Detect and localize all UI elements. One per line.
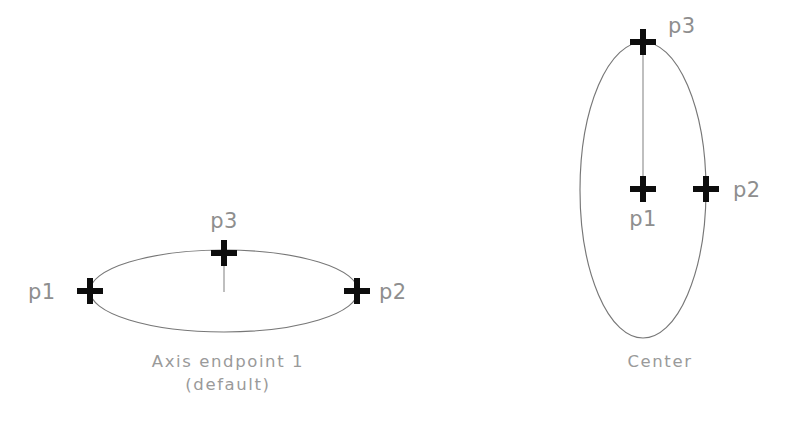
point-label-p2-center: p2 bbox=[733, 178, 761, 202]
point-label-p3-center: p3 bbox=[668, 14, 696, 38]
ellipse-methods-diagram: p1 p2 p3 Axis endpoint 1 (default) p1 bbox=[0, 0, 796, 422]
point-marker-p1-axis-endpoint[interactable] bbox=[77, 278, 103, 304]
point-marker-p3-center[interactable] bbox=[630, 29, 656, 55]
point-marker-p3-axis-endpoint[interactable] bbox=[211, 240, 237, 266]
point-marker-p2-axis-endpoint[interactable] bbox=[344, 278, 370, 304]
point-marker-p2-center[interactable] bbox=[693, 176, 719, 202]
point-label-p1-center: p1 bbox=[629, 207, 657, 231]
caption-axis-endpoint-line1: Axis endpoint 1 bbox=[152, 352, 304, 371]
figure-center: p1 p2 p3 Center bbox=[580, 14, 761, 371]
caption-axis-endpoint-line2: (default) bbox=[185, 375, 270, 394]
point-label-p3-axis-endpoint: p3 bbox=[210, 209, 238, 233]
figure-axis-endpoint: p1 p2 p3 Axis endpoint 1 (default) bbox=[28, 209, 407, 394]
caption-center-line1: Center bbox=[627, 352, 692, 371]
point-label-p2-axis-endpoint: p2 bbox=[379, 280, 407, 304]
point-label-p1-axis-endpoint: p1 bbox=[28, 280, 56, 304]
point-marker-p1-center[interactable] bbox=[630, 176, 656, 202]
